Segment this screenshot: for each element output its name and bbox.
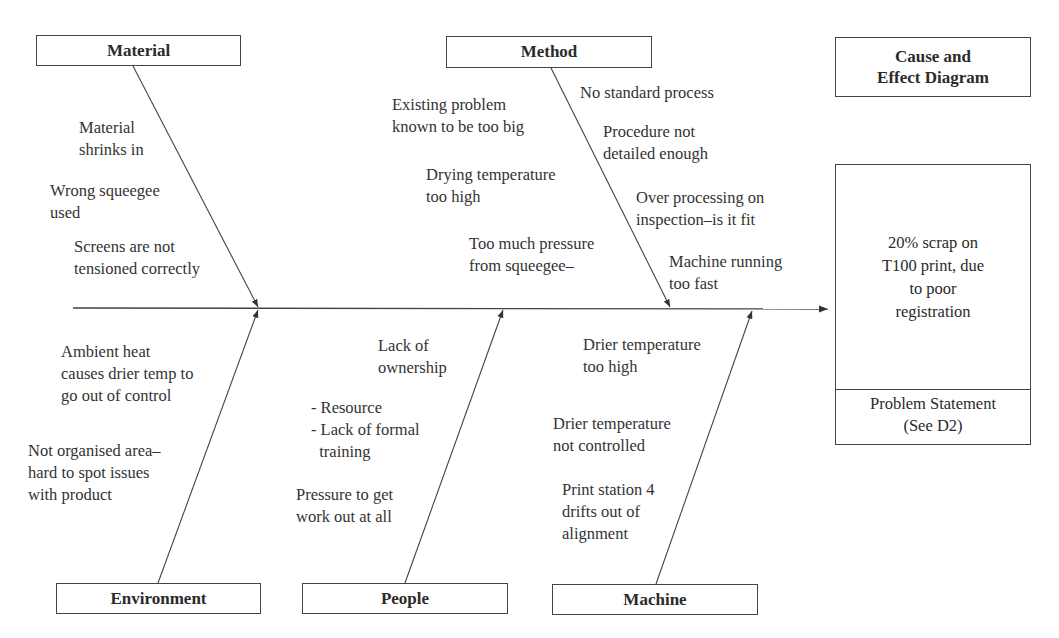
cause-machine-2: Drier temperature not controlled [553,413,671,457]
cause-method-right-1: No standard process [580,82,714,104]
cause-method-right-2: Procedure not detailed enough [603,121,708,165]
effect-statement: 20% scrap on T100 print, due to poor reg… [836,165,1030,389]
category-material: Material [36,35,241,66]
cause-machine-3: Print station 4 drifts out of alignment [562,479,655,545]
cause-material-2: Wrong squeegee used [50,180,160,224]
category-machine: Machine [552,584,758,615]
effect-line: registration [882,300,984,323]
category-people: People [302,583,508,614]
cause-method-right-4: Machine running too fast [669,251,782,295]
cause-machine-1: Drier temperature too high [583,334,701,378]
effect-line: to poor [882,277,984,300]
effect-line: 20% scrap on [882,231,984,254]
cause-method-left-2: Drying temperature too high [426,164,556,208]
cause-method-left-3: Too much pressure from squeegee– [469,233,594,277]
footer-line: Problem Statement [836,393,1030,415]
title-line-1: Cause and [836,46,1030,67]
cause-people-3: Pressure to get work out at all [296,484,393,528]
title-line-2: Effect Diagram [836,67,1030,88]
category-environment: Environment [56,583,261,614]
cause-environment-1: Ambient heat causes drier temp to go out… [61,341,193,407]
spine-arrow [73,308,828,309]
effect-box: 20% scrap on T100 print, due to poor reg… [835,164,1031,445]
effect-line: T100 print, due [882,254,984,277]
diagram-title: Cause and Effect Diagram [835,37,1031,97]
cause-method-right-3: Over processing on inspection–is it fit [636,187,764,231]
footer-line: (See D2) [836,415,1030,437]
cause-method-left-1: Existing problem known to be too big [392,94,524,138]
cause-material-1: Material shrinks in [79,117,144,161]
cause-material-3: Screens are not tensioned correctly [74,236,200,280]
cause-people-1: Lack of ownership [378,335,447,379]
category-method: Method [446,36,652,68]
cause-people-2: - Resource - Lack of formal training [311,397,420,463]
cause-environment-2: Not organised area– hard to spot issues … [28,440,161,506]
problem-statement-label: Problem Statement (See D2) [836,389,1030,444]
